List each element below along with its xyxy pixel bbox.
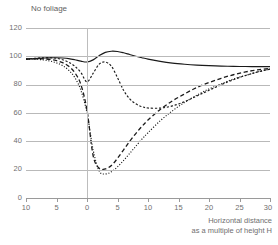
x-tick-mark-25 bbox=[240, 198, 241, 202]
gridline-80 bbox=[26, 85, 270, 86]
x-tick-label-25: 25 bbox=[228, 203, 252, 212]
gridline-60 bbox=[26, 113, 270, 114]
x-tick-mark-5 bbox=[118, 198, 119, 202]
y-tick-label-20: 20 bbox=[0, 165, 22, 173]
series-line-dashed bbox=[26, 59, 270, 170]
x-tick-mark-0 bbox=[87, 198, 88, 202]
gridline-100 bbox=[26, 56, 270, 57]
reference-line-x0 bbox=[87, 28, 88, 198]
x-tick-label--5: 5 bbox=[45, 203, 69, 212]
plot-area bbox=[26, 28, 270, 198]
x-tick-mark-30 bbox=[270, 198, 271, 202]
x-tick-mark-20 bbox=[209, 198, 210, 202]
gridline-120 bbox=[26, 28, 270, 29]
y-tick-label-40: 40 bbox=[0, 137, 22, 145]
chart-container: No foliage 120 100 80 60 40 20 0 10 5 0 … bbox=[0, 0, 278, 245]
x-tick-label-10: 10 bbox=[136, 203, 160, 212]
x-tick-mark-15 bbox=[179, 198, 180, 202]
chart-title: No foliage bbox=[31, 4, 67, 14]
x-tick-label-20: 20 bbox=[197, 203, 221, 212]
x-tick-label-5: 5 bbox=[106, 203, 130, 212]
y-tick-label-100: 100 bbox=[0, 52, 22, 60]
gridline-40 bbox=[26, 141, 270, 142]
gridline-20 bbox=[26, 170, 270, 171]
x-tick-label-15: 15 bbox=[167, 203, 191, 212]
x-axis-label-line2: as a multiple of height H bbox=[192, 226, 272, 236]
x-tick-mark--5 bbox=[57, 198, 58, 202]
series-line-dotted bbox=[26, 59, 270, 174]
x-tick-label--10: 10 bbox=[14, 203, 38, 212]
x-axis-label-line1: Horizontal distance bbox=[192, 216, 272, 226]
x-tick-mark--10 bbox=[26, 198, 27, 202]
y-tick-label-80: 80 bbox=[0, 80, 22, 88]
y-tick-label-60: 60 bbox=[0, 109, 22, 117]
y-tick-label-0: 0 bbox=[0, 194, 22, 202]
y-tick-label-120: 120 bbox=[0, 24, 22, 32]
x-tick-label-0: 0 bbox=[75, 203, 99, 212]
x-tick-label-30: 30 bbox=[256, 203, 278, 212]
x-axis-label: Horizontal distance as a multiple of hei… bbox=[192, 216, 272, 236]
x-tick-mark-10 bbox=[148, 198, 149, 202]
series-line-solid bbox=[26, 51, 270, 67]
